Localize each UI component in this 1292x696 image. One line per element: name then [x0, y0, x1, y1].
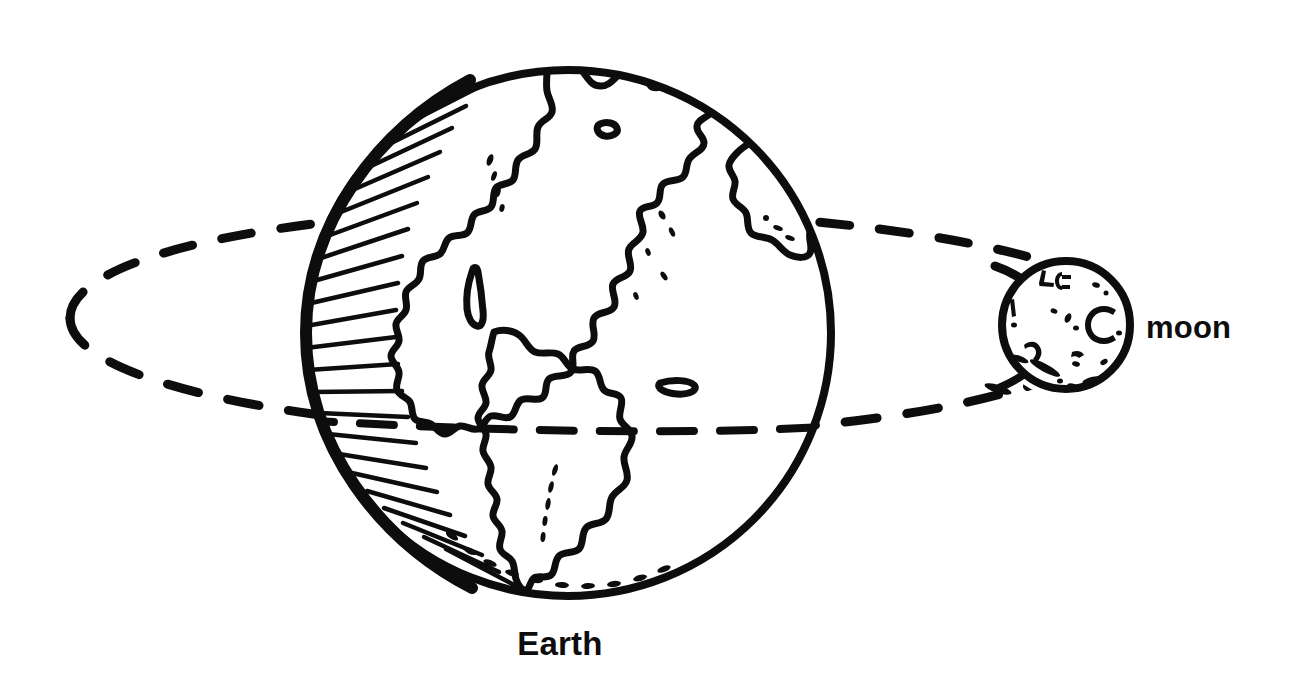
moon-body — [983, 261, 1130, 397]
earth-globe — [300, 56, 840, 596]
diagram-canvas: Earth moon — [0, 0, 1292, 696]
moon-outline — [1002, 261, 1130, 389]
earth-moon-diagram: Earth moon — [0, 0, 1292, 696]
moon-label: moon — [1146, 310, 1231, 345]
earth-label: Earth — [517, 625, 602, 662]
